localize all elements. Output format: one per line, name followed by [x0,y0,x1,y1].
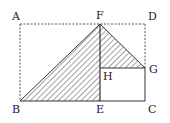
label-d: D [148,10,157,23]
label-h: H [103,70,113,83]
label-e: E [96,103,104,116]
geometry-diagram: A F D G H B E C [0,0,170,123]
label-c: C [148,103,156,116]
label-a: A [11,10,21,23]
label-b: B [12,103,20,116]
label-g: G [149,63,158,76]
label-f: F [96,9,104,22]
